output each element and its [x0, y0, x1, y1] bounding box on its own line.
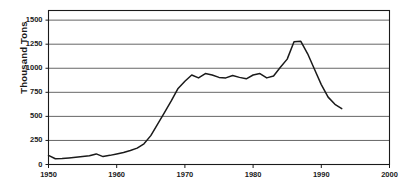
x-tick-label: 2000	[370, 170, 400, 179]
plot-frame	[49, 11, 390, 165]
plot-area	[0, 0, 400, 189]
x-tick-label: 1990	[301, 170, 341, 179]
y-tick-label: 1500	[0, 15, 43, 24]
x-tick-label: 1950	[29, 170, 69, 179]
y-tick-label: 500	[0, 111, 43, 120]
x-tick-label: 1960	[97, 170, 137, 179]
y-tick-label: 250	[0, 135, 43, 144]
x-tick-label: 1980	[233, 170, 273, 179]
y-tick-label: 0	[0, 160, 43, 169]
y-tick-label: 750	[0, 87, 43, 96]
data-series-production	[49, 41, 342, 158]
y-tick-label: 1000	[0, 63, 43, 72]
frame-rect	[49, 11, 390, 165]
gridlines	[46, 20, 390, 164]
y-tick-label: 1250	[0, 39, 43, 48]
x-tick-label: 1970	[165, 170, 205, 179]
line-chart: Thousand Tons 0250500750100012501500 195…	[0, 0, 400, 189]
series-line	[49, 41, 342, 158]
